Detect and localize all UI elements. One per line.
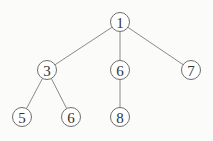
node-label: 6 [67,110,75,126]
tree-edge-n1-n7 [128,27,183,64]
tree-diagram: 1367568 [0,0,213,141]
tree-edge-n3-n6b [51,78,66,108]
tree-node-n7: 7 [182,61,201,80]
node-label: 7 [187,63,195,79]
node-label: 8 [116,110,124,126]
node-label: 6 [116,63,124,79]
tree-node-n1: 1 [111,13,130,32]
tree-node-n8: 8 [111,108,130,127]
node-label: 5 [18,110,26,126]
tree-node-n6b: 6 [62,108,81,127]
tree-nodes: 1367568 [13,13,201,127]
node-label: 1 [116,15,124,31]
node-label: 3 [43,63,51,79]
tree-edge-n3-n5 [26,78,42,108]
tree-node-n5: 5 [13,108,32,127]
tree-node-n3: 3 [38,61,57,80]
tree-node-n6a: 6 [111,61,130,80]
tree-edge-n1-n3 [55,27,112,65]
